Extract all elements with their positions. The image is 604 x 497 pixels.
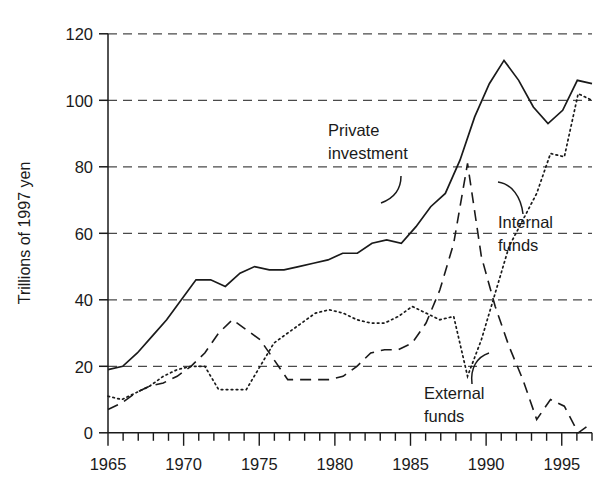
line-chart: 120 100 80 60 40 20 0 1965 1970 1975 198… xyxy=(0,0,604,497)
x-axis-tick-labels: 1965 1970 1975 1980 1985 1990 1995 xyxy=(90,455,581,473)
internal-funds-leader-line xyxy=(498,182,523,214)
x-axis-ticks xyxy=(108,433,592,446)
y-tick-label-60: 60 xyxy=(75,225,93,243)
private-investment-label-line2: investment xyxy=(328,144,408,162)
internal-funds-label-line1: Internal xyxy=(498,213,553,231)
y-axis-tick-labels: 120 100 80 60 40 20 0 xyxy=(65,25,93,442)
internal-funds-label-line2: funds xyxy=(498,236,538,254)
x-tick-label-1980: 1980 xyxy=(317,455,354,473)
x-tick-label-1975: 1975 xyxy=(241,455,278,473)
series-external-funds xyxy=(108,163,592,432)
x-tick-label-1965: 1965 xyxy=(90,455,127,473)
y-axis-title: Trillions of 1997 yen xyxy=(16,162,33,305)
external-funds-label-line1: External xyxy=(424,384,485,402)
y-axis-ticks xyxy=(99,34,108,433)
private-investment-label-line1: Private xyxy=(328,121,379,139)
x-tick-label-1970: 1970 xyxy=(165,455,202,473)
x-tick-label-1990: 1990 xyxy=(468,455,505,473)
annotation-external-funds: External funds xyxy=(424,384,485,425)
y-tick-label-20: 20 xyxy=(75,358,93,376)
x-tick-label-1995: 1995 xyxy=(544,455,581,473)
y-tick-label-0: 0 xyxy=(84,424,93,442)
chart-container: 120 100 80 60 40 20 0 1965 1970 1975 198… xyxy=(0,0,604,497)
y-tick-label-80: 80 xyxy=(75,158,93,176)
external-funds-label-line2: funds xyxy=(424,407,464,425)
x-tick-label-1985: 1985 xyxy=(392,455,429,473)
y-tick-label-120: 120 xyxy=(65,25,93,43)
y-tick-label-40: 40 xyxy=(75,291,93,309)
annotation-private-investment: Private investment xyxy=(328,121,408,162)
y-tick-label-100: 100 xyxy=(65,92,93,110)
private-investment-leader-line xyxy=(381,176,401,203)
